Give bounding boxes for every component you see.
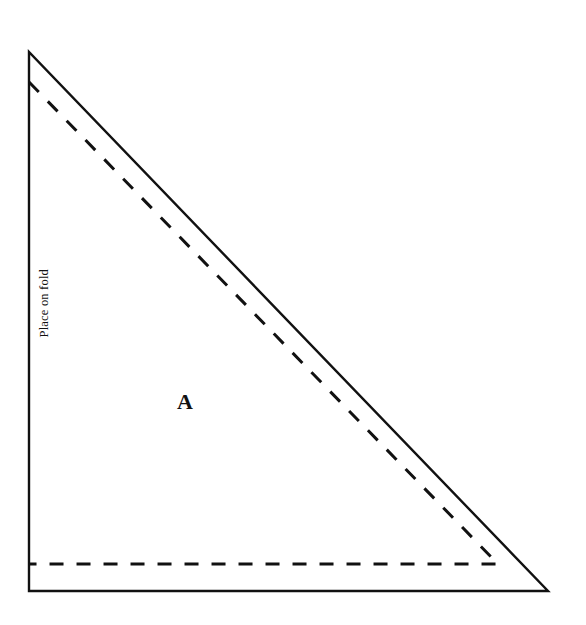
cutting-line-triangle [29, 52, 548, 591]
pattern-sheet: Place on fold A [0, 0, 586, 625]
seam-line-dashed [29, 82, 498, 564]
place-on-fold-label: Place on fold [38, 269, 51, 338]
pattern-piece-letter: A [177, 391, 193, 413]
pattern-diagram [0, 0, 586, 625]
